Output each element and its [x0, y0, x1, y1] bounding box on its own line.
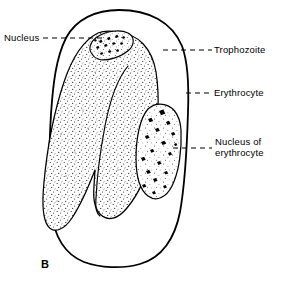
figure-panel-b: Nucleus Trophozoite Erythrocyte Nucleus … [0, 0, 284, 281]
label-trophozoite: Trophozoite [214, 44, 265, 55]
label-erythrocyte: Erythrocyte [214, 87, 264, 98]
label-nucleus: Nucleus [4, 32, 39, 43]
label-nucleus-of-erythrocyte: Nucleus oferythrocyte [215, 136, 264, 158]
label-nucleus-of-erythrocyte-line1: Nucleus of [215, 136, 261, 147]
label-nucleus-of-erythrocyte-line2: erythrocyte [215, 147, 264, 158]
figure-letter: B [41, 258, 49, 270]
